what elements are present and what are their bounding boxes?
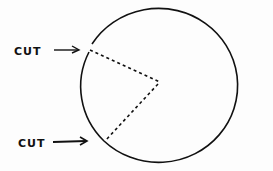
circle-cut-diagram: CUT CUT (0, 0, 273, 171)
cut-label-bottom: CUT (18, 137, 46, 150)
cut-label-top: CUT (14, 45, 42, 58)
arrow-icon-top (54, 46, 79, 53)
arrow-icon-bottom (53, 137, 87, 145)
cut-line-bottom (105, 84, 158, 141)
cut-line-top (90, 50, 160, 82)
circle-outline (81, 8, 238, 162)
